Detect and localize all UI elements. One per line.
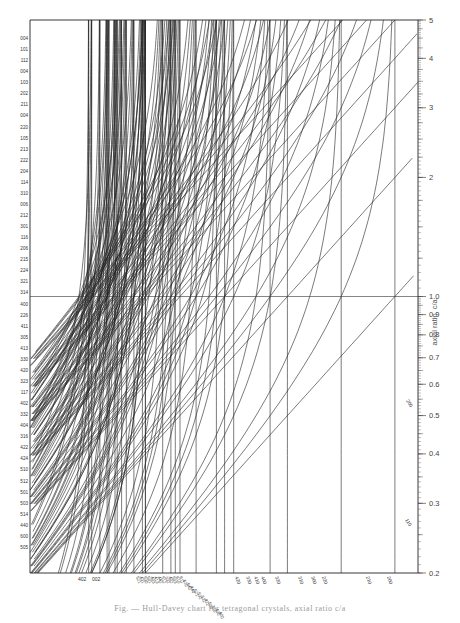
y-tick-label: 4 [429,54,433,63]
y-tick-label: 5 [429,16,433,25]
y-tick-label: 0.6 [429,380,439,389]
hkl-curve [36,20,328,504]
left-hkl-label: 404 [20,423,28,428]
left-hkl-label: 501 [20,490,28,495]
left-hkl-label: 212 [20,213,28,218]
bottom-hkl-label: 320 [274,576,282,586]
left-hkl-label: 510 [20,467,28,472]
left-hkl-label: 112 [21,58,29,63]
left-hkl-label: 202 [20,91,28,96]
left-hkl-label: 101 [20,47,28,52]
left-hkl-label: 213 [20,147,28,152]
left-hkl-label: 105 [20,136,28,141]
left-hkl-label: 323 [20,379,28,384]
left-hkl-label: 600 [20,534,28,539]
left-hkl-label: 004 [20,36,28,41]
y-tick-label: 2 [429,173,433,182]
left-hkl-label: 220 [20,125,28,130]
left-hkl-label: 215 [20,257,28,262]
hull-davey-chart: 54321.00.90.80.70.60.50.40.30.2axial rat… [0,0,460,623]
left-hkl-label: 211 [21,102,29,107]
left-hkl-label: 103 [20,80,28,85]
y-axis-label: axial ratio, c/a [430,298,439,345]
left-hkl-label: 316 [20,434,28,439]
left-hkl-label: 440 [20,523,28,528]
left-hkl-label: 114 [21,180,29,185]
left-hkl-label: 514 [20,512,28,517]
left-hkl-label: 004 [20,69,28,74]
left-hkl-label: 424 [20,456,28,461]
left-hkl-label: 006 [20,202,28,207]
bottom-hkl-label: 310 [297,576,305,586]
bottom-hkl-label: 220 [321,576,329,586]
left-hkl-label: 512 [20,479,28,484]
hkl-labels: 0041011120041032022110042201052132222041… [20,36,413,620]
left-hkl-label: 305 [20,335,28,340]
left-hkl-label: 330 [20,357,28,362]
y-tick-label: 0.3 [429,499,439,508]
left-hkl-label: 222 [20,158,28,163]
bottom-hkl-label: 420 [234,576,242,586]
bottom-hkl-label: 400 [260,576,268,586]
left-hkl-label: 402 [20,401,28,406]
hkl-curve [145,276,413,573]
hkl-curve [31,20,145,559]
y-tick-label: 0.5 [429,411,439,420]
y-tick-label: 0.4 [429,449,439,458]
left-hkl-label: 314 [20,290,28,295]
y-tick-label: 0.7 [429,353,439,362]
left-hkl-label: 503 [20,501,28,506]
left-hkl-label: 204 [20,169,28,174]
hkl-curve [31,20,145,559]
left-hkl-label: 310 [20,191,28,196]
left-hkl-label: 206 [20,246,28,251]
left-hkl-label: 400 [20,302,28,307]
bottom-hkl-label: 402 [78,576,87,582]
left-hkl-label: 226 [20,313,28,318]
left-hkl-label: 301 [20,224,28,229]
hkl-curve [38,158,412,573]
left-hkl-label: 413 [20,346,28,351]
y-axis: 54321.00.90.80.70.60.50.40.30.2axial rat… [418,16,439,578]
bottom-hkl-label: 330 [245,576,253,586]
bottom-hkl-label: 002 [92,576,101,582]
left-hkl-label: 117 [21,390,29,395]
left-hkl-label: 332 [20,412,28,417]
bottom-hkl-label: 300 [310,576,318,586]
left-hkl-label: 420 [20,368,28,373]
hkl-curve [36,20,367,386]
left-hkl-label: 321 [20,279,28,284]
left-hkl-label: 411 [21,324,29,329]
hkl-curve [35,20,213,380]
diagonal-hkl-label: 200 [405,399,414,409]
left-hkl-label: 422 [20,445,28,450]
left-hkl-label: 505 [20,545,28,550]
bottom-hkl-label: 410 [253,576,261,586]
y-tick-label: 0.2 [429,569,439,578]
diagonal-hkl-label: 110 [404,518,412,527]
left-hkl-label: 004 [20,113,28,118]
figure-caption: Fig. — Hull-Davey chart for tetragonal c… [0,604,460,613]
y-tick-label: 3 [429,103,433,112]
left-hkl-label: 224 [20,268,28,273]
bottom-hkl-label: 200 [386,576,394,586]
left-hkl-label: 116 [21,235,29,240]
bottom-hkl-label: 210 [365,576,373,586]
